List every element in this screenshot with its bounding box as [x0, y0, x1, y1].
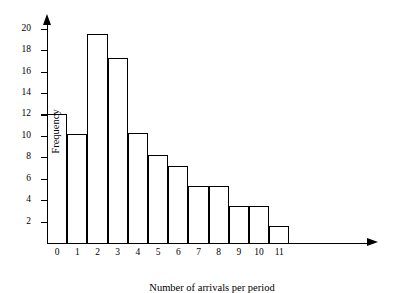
y-axis-tick-label: 6 — [7, 174, 31, 184]
histogram-bar — [188, 186, 208, 243]
y-axis-tick-label: 18 — [7, 45, 31, 55]
histogram-bar — [249, 206, 269, 244]
histogram-bar — [209, 186, 229, 243]
y-axis-tick-label: 4 — [7, 195, 31, 205]
histogram-bar — [269, 226, 289, 243]
histogram-bar — [108, 58, 128, 243]
y-axis-title: Frequency — [50, 72, 61, 192]
x-axis-arrow-icon — [367, 238, 378, 246]
histogram-bar — [148, 155, 168, 243]
x-axis-title: Number of arrivals per period — [47, 282, 377, 293]
y-axis-tick-label: 12 — [7, 109, 31, 119]
plot-area: 2468101214161820 01234567891011 Number o… — [47, 18, 377, 243]
histogram-chart: 2468101214161820 01234567891011 Number o… — [0, 0, 398, 293]
histogram-bar — [87, 34, 107, 243]
histogram-bar — [229, 206, 249, 244]
y-axis-tick-label: 16 — [7, 67, 31, 77]
x-axis-tick-label: 11 — [267, 248, 291, 258]
histogram-bar — [168, 166, 188, 243]
y-axis-tick-label: 2 — [7, 217, 31, 227]
y-axis-tick-label: 14 — [7, 88, 31, 98]
histogram-bar — [128, 133, 148, 243]
histogram-bar — [67, 134, 87, 243]
histogram-bars — [47, 18, 289, 243]
y-axis-tick-label: 20 — [7, 24, 31, 34]
x-axis-line — [47, 243, 369, 244]
y-axis-tick-label: 8 — [7, 152, 31, 162]
y-axis-tick-label: 10 — [7, 131, 31, 141]
